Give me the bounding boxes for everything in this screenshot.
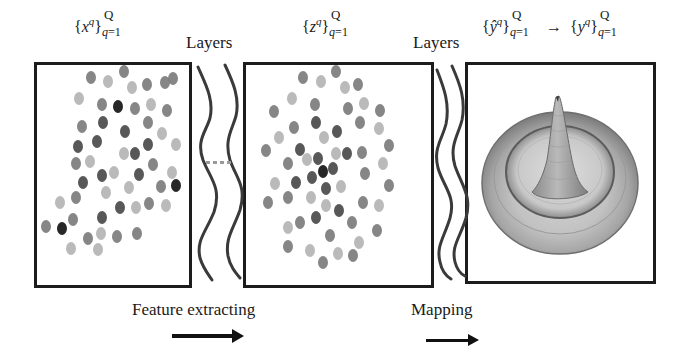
- layer-wave-icon: [198, 65, 242, 280]
- ellipsis-dots-icon: [206, 161, 231, 164]
- mapping-label: Mapping: [411, 301, 472, 318]
- layers-graphics: [0, 0, 683, 364]
- layer-wave-icon: [437, 66, 468, 279]
- feature-extracting-label: Feature extracting: [132, 301, 255, 318]
- mexican-hat-surface-icon: [482, 96, 638, 254]
